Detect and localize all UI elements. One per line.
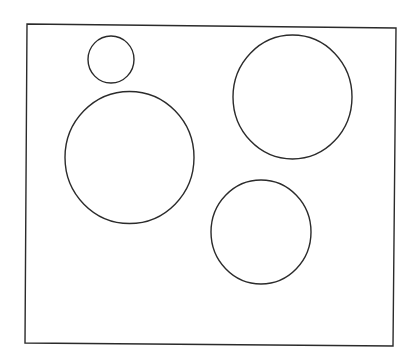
diagram-canvas (0, 0, 415, 358)
background (0, 0, 415, 358)
